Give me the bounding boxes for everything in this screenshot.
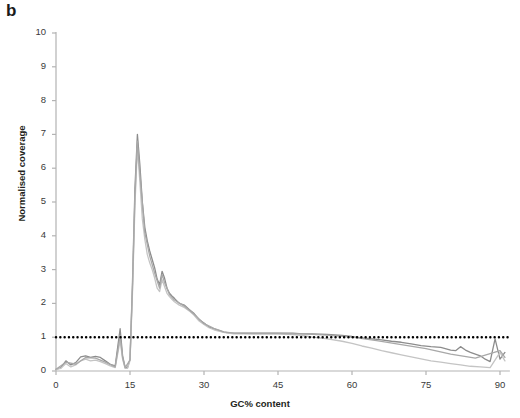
y-tick-label-2: 2 bbox=[22, 296, 46, 307]
x-tick-label-15: 15 bbox=[110, 379, 150, 390]
x-tick-label-60: 60 bbox=[332, 379, 372, 390]
series-line-sample-light bbox=[56, 148, 505, 369]
y-tick-label-7: 7 bbox=[22, 127, 46, 138]
y-tick-label-3: 3 bbox=[22, 263, 46, 274]
axis-ticks bbox=[52, 33, 500, 375]
axis-lines bbox=[56, 32, 510, 371]
y-tick-label-6: 6 bbox=[22, 161, 46, 172]
series-line-sample-mid bbox=[56, 141, 505, 369]
y-tick-label-10: 10 bbox=[22, 26, 46, 37]
x-tick-label-90: 90 bbox=[480, 379, 520, 390]
data-series-group bbox=[56, 134, 505, 369]
y-tick-label-8: 8 bbox=[22, 94, 46, 105]
y-tick-label-0: 0 bbox=[22, 364, 46, 375]
figure-panel-b: b Normalised coverage GC% content 012345… bbox=[0, 0, 520, 418]
y-tick-label-5: 5 bbox=[22, 195, 46, 206]
x-tick-label-0: 0 bbox=[36, 379, 76, 390]
y-tick-label-4: 4 bbox=[22, 229, 46, 240]
x-tick-label-75: 75 bbox=[406, 379, 446, 390]
x-tick-label-30: 30 bbox=[184, 379, 224, 390]
x-tick-label-45: 45 bbox=[258, 379, 298, 390]
y-tick-label-9: 9 bbox=[22, 60, 46, 71]
y-tick-label-1: 1 bbox=[22, 330, 46, 341]
chart-plot-area bbox=[0, 0, 520, 418]
